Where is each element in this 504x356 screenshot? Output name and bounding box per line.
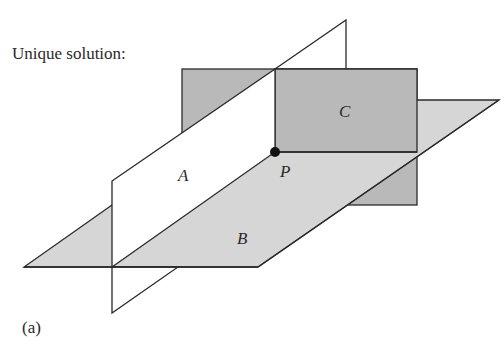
label-b: B [237,229,248,248]
label-c: C [339,102,351,121]
figure-caption: (a) [22,318,41,338]
three-planes-diagram: A B C P [0,0,504,356]
plane-a-top-edge [275,20,346,69]
label-p: P [279,162,290,181]
intersection-point-p [270,147,280,157]
plane-a-lower [112,267,178,313]
label-a: A [177,166,189,185]
